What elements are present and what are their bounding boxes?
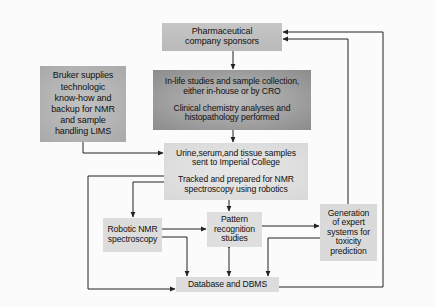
node-in-life-studies: In-life studies and sample collection, e… — [153, 70, 311, 130]
node-bruker-supplies: Bruker supplies technologic know-how and… — [40, 66, 126, 142]
node-text: spectroscopy using robotics — [184, 185, 287, 195]
node-text: sent to Imperial College — [192, 158, 280, 168]
node-text: Database and DBMS — [188, 280, 267, 290]
node-text: backup for NMR — [51, 104, 115, 115]
node-expert-systems: Generation of expert systems for toxicit… — [320, 204, 377, 261]
node-urine-serum-tissue: Urine,serum,and tissue samples sent to I… — [164, 143, 308, 200]
node-text: handling LIMS — [55, 126, 111, 137]
node-text: and sample — [60, 115, 106, 126]
node-text: either in-house or by CRO — [183, 87, 280, 97]
arrow-urine-to-robotic — [133, 182, 164, 217]
node-database-dbms: Database and DBMS — [176, 277, 279, 292]
arrow-generation-to-database — [268, 238, 320, 276]
node-text: technologic — [61, 82, 105, 93]
node-text: company sponsors — [185, 37, 259, 47]
node-text: know-how and — [55, 93, 112, 104]
node-text: Bruker supplies — [53, 70, 114, 81]
node-text: prediction — [330, 247, 366, 257]
arrow-robotic-to-database — [162, 237, 187, 276]
node-pattern-recognition: Pattern recognition studies — [207, 212, 262, 247]
node-robotic-nmr: Robotic NMR spectroscopy — [103, 218, 162, 252]
node-text: spectroscopy — [108, 235, 157, 245]
node-pharmaceutical-sponsors: Pharmaceutical company sponsors — [162, 23, 282, 51]
arrow-bruker-to-urine — [83, 142, 163, 153]
node-text: studies — [221, 234, 248, 244]
diagram-canvas: Pharmaceutical company sponsors Bruker s… — [0, 0, 436, 307]
node-text: histopathology performed — [185, 113, 280, 123]
